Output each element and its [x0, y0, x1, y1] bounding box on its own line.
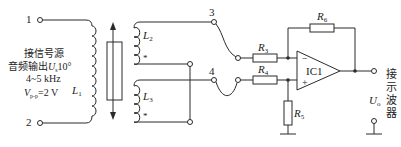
output-ground-terminal	[372, 119, 377, 124]
resistor-R3-label: R3	[257, 41, 269, 55]
oscilloscope-label: 接 示 波 器	[386, 68, 397, 120]
resistor-R4	[253, 76, 277, 84]
jumper-wire-3	[216, 24, 236, 57]
svg-text:器: 器	[386, 107, 397, 120]
output-terminal	[372, 69, 377, 74]
terminal-4	[212, 78, 217, 83]
coil-L1-label: L1	[71, 84, 82, 98]
node-inverting	[286, 56, 290, 60]
resistor-R4-label: R4	[257, 63, 269, 77]
source-label-line1: 接信号源	[24, 47, 64, 59]
circuit-diagram: 1 2 L1 接信号源 音频输出Us10° 4~5 kHz Vp-p=2 V L…	[0, 0, 401, 147]
terminal-3	[212, 20, 217, 25]
resistor-R6	[310, 24, 334, 32]
terminal-2	[38, 121, 43, 126]
opamp-label: IC1	[306, 65, 323, 77]
coil-L3-dot: *	[143, 111, 148, 121]
resistor-R6-label: R6	[316, 10, 328, 24]
terminal-3b	[236, 56, 241, 61]
coil-L2-dot: *	[143, 53, 148, 63]
svg-text:接: 接	[386, 68, 397, 81]
output-voltage-label: Uo	[369, 94, 381, 108]
terminal-2-label: 2	[26, 116, 32, 128]
resistor-R3	[253, 54, 277, 62]
source-label: 接信号源 音频输出Us10° 4~5 kHz Vp-p=2 V	[8, 47, 72, 99]
junction-terminal-bottom	[188, 120, 193, 125]
adjustable-core	[107, 22, 122, 120]
source-label-frequency: 4~5 kHz	[26, 73, 61, 84]
terminal-1	[38, 18, 43, 23]
terminal-1-label: 1	[26, 13, 32, 25]
svg-text:示: 示	[386, 81, 397, 94]
junction-terminal-top	[188, 62, 193, 67]
opamp-IC1: − + IC1	[297, 51, 340, 90]
terminal-3-label: 3	[209, 6, 215, 18]
coil-L2-label: L2	[142, 29, 153, 43]
source-label-line2: 音频输出Us10°	[8, 60, 72, 73]
svg-text:波: 波	[386, 94, 397, 107]
opamp-minus: −	[302, 53, 308, 64]
jumper-wire-4	[216, 82, 237, 96]
opamp-plus: +	[302, 77, 308, 88]
terminal-4b	[236, 78, 241, 83]
source-label-voltage: Vp-p=2 V	[24, 87, 59, 99]
coil-L3-label: L3	[142, 90, 153, 104]
resistor-R5	[284, 101, 292, 125]
node-output	[353, 69, 357, 73]
node-noninverting	[286, 78, 290, 82]
resistor-R5-label: R5	[293, 107, 305, 121]
terminal-4-label: 4	[209, 65, 215, 77]
